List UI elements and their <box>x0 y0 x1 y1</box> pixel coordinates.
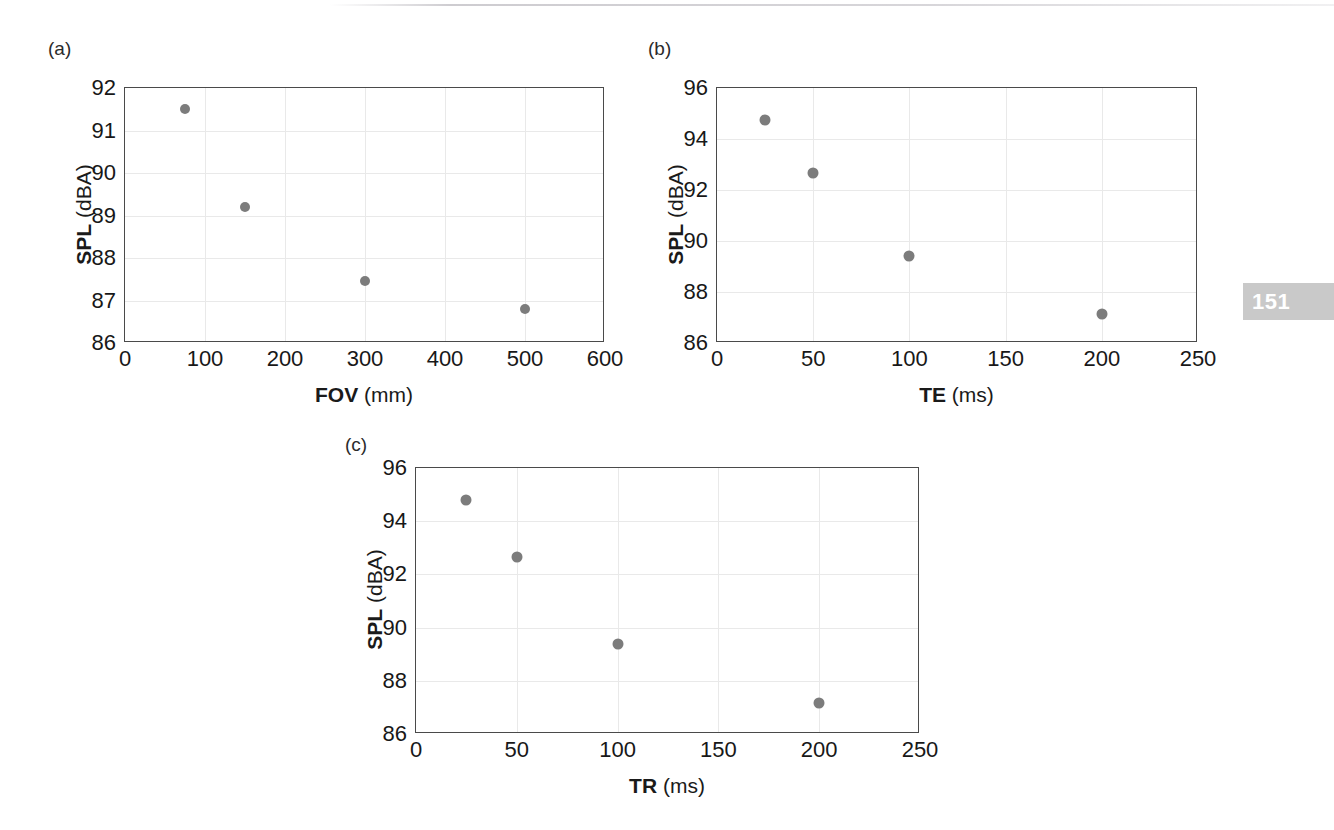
panel-c-gridline-vertical <box>819 468 820 732</box>
panel-b-x-tick-label: 0 <box>711 348 723 370</box>
panel-a-gridline-vertical <box>205 88 206 341</box>
panel-c-gridline-vertical <box>718 468 719 732</box>
panel-b-data-point <box>760 114 771 125</box>
panel-b-gridline-horizontal <box>717 190 1196 191</box>
panel-a-x-tick-label: 500 <box>507 348 544 370</box>
panel-a-data-point <box>360 276 370 286</box>
panel-a-x-tick-label: 0 <box>119 348 131 370</box>
panel-c-x-tick-label: 200 <box>801 739 838 761</box>
panel-b-gridline-vertical <box>813 88 814 341</box>
panel-c-gridline-horizontal <box>416 574 918 575</box>
panel-a-y-tick-label: 87 <box>92 290 125 312</box>
panel-c-y-tick-label: 88 <box>383 670 416 692</box>
panel-c-y-tick-label: 92 <box>383 563 416 585</box>
panel-b-x-axis-title: TE (ms) <box>717 384 1196 405</box>
panel-b-x-tick-label: 250 <box>1180 348 1217 370</box>
panel-b-y-tick-label: 92 <box>684 179 717 201</box>
panel-c-x-tick-label: 100 <box>599 739 636 761</box>
panel-b-data-point <box>808 168 819 179</box>
panel-a-y-tick-label: 92 <box>92 77 125 99</box>
panel-a-tag: (a) <box>48 38 71 60</box>
panel-c-data-point <box>511 552 522 563</box>
panel-c-plot-area: SPL (dBA) TR (ms) 8688909294960501001502… <box>415 467 919 733</box>
page-number-text: 151 <box>1243 291 1290 313</box>
panel-b-y-tick-label: 88 <box>684 281 717 303</box>
panel-c-gridline-vertical <box>618 468 619 732</box>
panel-c-gridline-horizontal <box>416 521 918 522</box>
panel-b-gridline-horizontal <box>717 292 1196 293</box>
panel-a-x-tick-label: 300 <box>347 348 384 370</box>
panel-b-gridline-vertical <box>1102 88 1103 341</box>
panel-b-x-axis-title-bold: TE <box>919 383 946 406</box>
panel-a-gridline-horizontal <box>125 301 603 302</box>
panel-b-gridline-vertical <box>1006 88 1007 341</box>
panel-c-gridline-horizontal <box>416 681 918 682</box>
panel-c-x-axis-title-bold: TR <box>629 774 657 797</box>
panel-c-x-tick-label: 50 <box>505 739 529 761</box>
panel-a-y-tick-label: 89 <box>92 205 125 227</box>
panel-b-y-tick-label: 90 <box>684 230 717 252</box>
panel-a-gridline-vertical <box>365 88 366 341</box>
panel-c-x-tick-label: 250 <box>902 739 939 761</box>
scan-artifact-line <box>330 4 1334 6</box>
panel-b-x-tick-label: 150 <box>987 348 1024 370</box>
panel-b-y-tick-label: 96 <box>684 77 717 99</box>
panel-b-x-tick-label: 100 <box>891 348 928 370</box>
panel-c-x-tick-label: 0 <box>410 739 422 761</box>
panel-a-y-tick-label: 91 <box>92 120 125 142</box>
panel-a-data-point <box>240 202 250 212</box>
page-number-badge: 151 <box>1243 283 1334 320</box>
panel-a-gridline-horizontal <box>125 216 603 217</box>
panel-b-tag: (b) <box>648 38 671 60</box>
panel-b-y-tick-label: 94 <box>684 128 717 150</box>
panel-b-gridline-vertical <box>909 88 910 341</box>
panel-b-data-point <box>1096 308 1107 319</box>
panel-c-x-axis-title-unit: (ms) <box>663 774 705 797</box>
panel-a-gridline-horizontal <box>125 131 603 132</box>
panel-a-gridline-vertical <box>445 88 446 341</box>
panel-c-data-point <box>612 638 623 649</box>
panel-b-x-tick-label: 50 <box>801 348 825 370</box>
panel-c-y-tick-label: 96 <box>383 457 416 479</box>
panel-a-x-tick-label: 100 <box>187 348 224 370</box>
panel-c-gridline-vertical <box>517 468 518 732</box>
panel-c-gridline-horizontal <box>416 628 918 629</box>
panel-a-gridline-horizontal <box>125 173 603 174</box>
panel-a-data-point <box>520 304 530 314</box>
panel-a-data-point <box>180 104 190 114</box>
panel-b-x-tick-label: 200 <box>1083 348 1120 370</box>
panel-b-data-point <box>904 251 915 262</box>
panel-c-data-point <box>461 494 472 505</box>
panel-b-y-axis-title: SPL (dBA) <box>665 134 686 294</box>
panel-c-y-axis-title: SPL (dBA) <box>364 520 385 680</box>
panel-a-gridline-vertical <box>285 88 286 341</box>
panel-a-x-axis-title-bold: FOV <box>315 383 358 406</box>
panel-a-x-tick-label: 400 <box>427 348 464 370</box>
panel-b-plot-area: SPL (dBA) TE (ms) 8688909294960501001502… <box>716 87 1197 342</box>
panel-a-x-tick-label: 200 <box>267 348 304 370</box>
panel-c-x-tick-label: 150 <box>700 739 737 761</box>
panel-b-gridline-horizontal <box>717 241 1196 242</box>
panel-a-y-axis-title: SPL (dBA) <box>73 134 94 294</box>
panel-c-y-tick-label: 94 <box>383 510 416 532</box>
panel-c-y-tick-label: 90 <box>383 617 416 639</box>
panel-a-x-axis-title: FOV (mm) <box>125 384 603 405</box>
panel-a-gridline-horizontal <box>125 258 603 259</box>
panel-a-x-tick-label: 600 <box>587 348 624 370</box>
panel-b-x-axis-title-unit: (ms) <box>952 383 994 406</box>
panel-a-y-tick-label: 88 <box>92 247 125 269</box>
panel-c-data-point <box>814 698 825 709</box>
panel-a-x-axis-title-unit: (mm) <box>364 383 413 406</box>
panel-a-y-tick-label: 90 <box>92 162 125 184</box>
panel-c-x-axis-title: TR (ms) <box>416 775 918 796</box>
panel-a-plot-area: SPL (dBA) FOV (mm) 868788899091920100200… <box>124 87 604 342</box>
panel-b-gridline-horizontal <box>717 139 1196 140</box>
panel-c-tag: (c) <box>345 434 367 456</box>
